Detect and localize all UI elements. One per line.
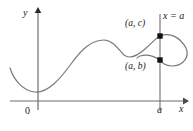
y-axis-arrow-icon — [35, 7, 42, 13]
point-label-a-c: (a, c) — [125, 19, 145, 29]
x-tick-label-a: a — [157, 105, 162, 115]
point-label-a-b: (a, b) — [125, 62, 146, 72]
origin-label: 0 — [25, 106, 30, 116]
x-axis-label: x — [179, 104, 183, 114]
x-axis — [10, 98, 189, 105]
point-marker-a-c — [157, 33, 162, 38]
curve-path — [10, 35, 187, 92]
point-marker-a-b — [157, 57, 162, 62]
x-axis-arrow-icon — [183, 98, 189, 105]
y-axis-label: y — [23, 8, 27, 18]
y-axis — [35, 7, 42, 110]
figure-canvas: y x 0 a x = a (a, c) (a, b) — [0, 0, 193, 131]
vertical-line-label: x = a — [163, 11, 184, 21]
